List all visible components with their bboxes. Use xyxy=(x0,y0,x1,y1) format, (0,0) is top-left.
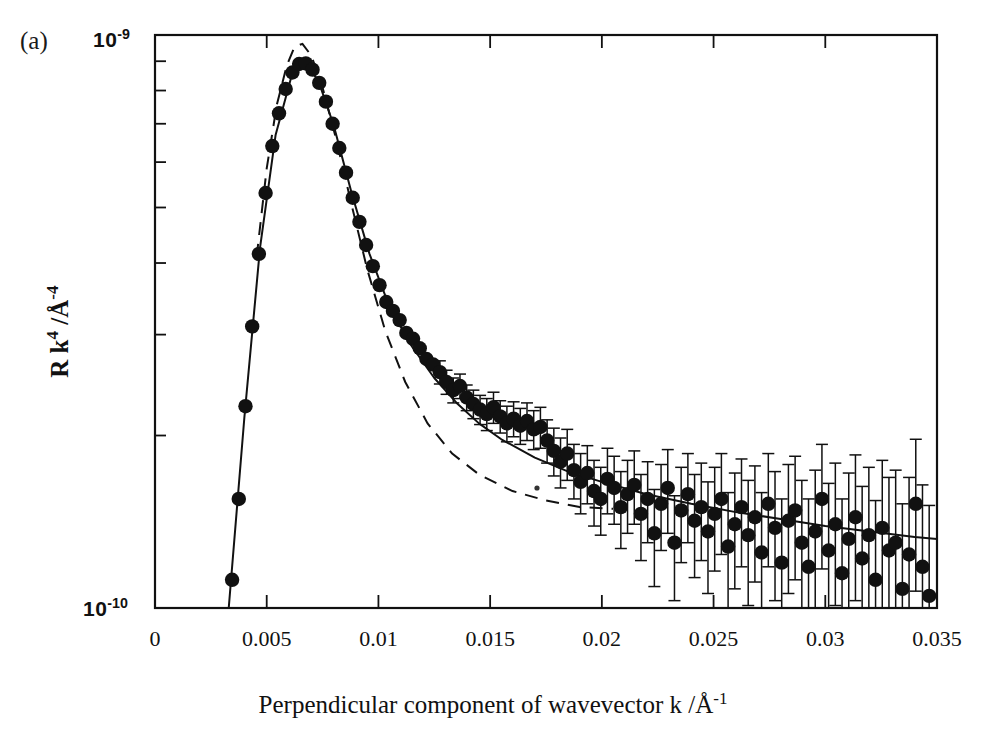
x-tick-label: 0 xyxy=(150,626,161,652)
x-tick-label: 0.005 xyxy=(242,626,292,652)
axes-frame xyxy=(155,35,937,608)
y-bottom-exponent: -10 xyxy=(107,595,128,611)
x-tick-label: 0.025 xyxy=(689,626,739,652)
x-axis-ticks xyxy=(155,35,937,608)
x-tick-label: 0.02 xyxy=(583,626,622,652)
y-axis-ticks xyxy=(155,35,170,436)
x-tick-label: 0.015 xyxy=(465,626,515,652)
y-axis-title-main: R k xyxy=(46,340,73,378)
scan-artifact-speck xyxy=(534,485,539,490)
panel-label: (a) xyxy=(20,28,48,53)
y-bottom-mantissa: 10 xyxy=(83,597,107,620)
figure-panel-a: (a) 10-9 10-10 R k4 /Å-4 00.0050.010.015… xyxy=(0,0,986,740)
x-axis-title-main: Perpendicular component of wavevector k … xyxy=(259,691,714,718)
y-axis-title: R k4 /Å-4 xyxy=(44,212,71,452)
y-top-mantissa: 10 xyxy=(93,28,117,51)
y-axis-title-unit: /Å xyxy=(46,300,73,331)
x-tick-label: 0.035 xyxy=(912,626,962,652)
y-top-exponent: -9 xyxy=(117,26,130,42)
y-axis-title-exp2: -4 xyxy=(43,286,62,300)
y-axis-bottom-tick-label: 10-10 xyxy=(83,596,128,619)
x-axis-title-exp: -1 xyxy=(713,689,727,708)
x-axis-title: Perpendicular component of wavevector k … xyxy=(0,690,986,717)
x-tick-label: 0.01 xyxy=(359,626,398,652)
y-axis-title-exp1: 4 xyxy=(43,331,62,340)
x-tick-label: 0.03 xyxy=(806,626,845,652)
data-point-markers xyxy=(225,56,936,603)
error-bars xyxy=(434,361,935,608)
dashed-fit-curve xyxy=(257,44,613,509)
y-axis-top-tick-label: 10-9 xyxy=(93,27,130,50)
